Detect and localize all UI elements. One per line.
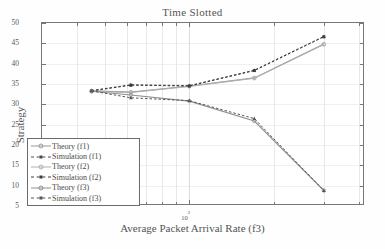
y-axis-label: Strategy [14, 70, 26, 180]
legend-item[interactable]: Simulation (f1) [31, 151, 136, 161]
x-tick-mantissa: 10 [181, 214, 188, 221]
data-point-marker [322, 35, 325, 38]
legend-swatch-icon [31, 141, 51, 151]
legend-label: Theory (f1) [51, 142, 89, 151]
legend-label: Simulation (f1) [51, 152, 101, 161]
legend-swatch-icon [31, 183, 51, 193]
series-line [92, 36, 324, 90]
legend-item[interactable]: Simulation (f3) [31, 193, 136, 203]
legend-swatch-icon [31, 193, 51, 203]
legend-item[interactable]: Theory (f2) [31, 162, 136, 172]
legend-swatch-icon [31, 152, 51, 162]
legend-label: Simulation (f3) [51, 194, 101, 203]
series-line [92, 44, 324, 92]
legend-swatch-icon [31, 172, 51, 182]
y-tick-label: 40 [0, 58, 19, 67]
series-line [92, 37, 324, 91]
x-tick-exponent: 2 [188, 210, 191, 215]
legend-swatch-icon [31, 162, 51, 172]
data-point-marker [253, 69, 256, 72]
legend-label: Theory (f2) [51, 162, 89, 171]
legend-item[interactable]: Theory (f1) [31, 141, 136, 151]
figure: Time Slotted 5045403530252015105 102 Ave… [0, 0, 385, 249]
legend-item[interactable]: Simulation (f2) [31, 172, 136, 182]
data-point-marker [129, 84, 132, 87]
series-line [92, 45, 324, 93]
y-tick-label: 45 [0, 38, 19, 47]
chart-title: Time Slotted [0, 6, 385, 18]
x-axis-label: Average Packet Arrival Rate (f3) [0, 222, 385, 234]
y-tick-label: 10 [0, 180, 19, 189]
legend-label: Simulation (f2) [51, 173, 101, 182]
data-point-marker [188, 85, 191, 88]
y-tick-label: 50 [0, 18, 19, 27]
legend[interactable]: Theory (f1)Simulation (f1)Theory (f2)Sim… [27, 138, 140, 206]
legend-item[interactable]: Theory (f3) [31, 183, 136, 193]
legend-label: Theory (f3) [51, 183, 89, 192]
